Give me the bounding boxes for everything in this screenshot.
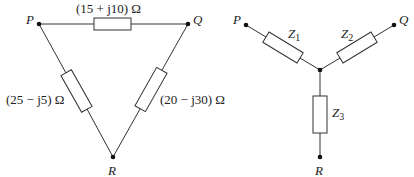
star-label-z2: Z2 — [341, 26, 353, 43]
delta-node-p — [37, 22, 42, 27]
delta-impedance-pq: (15 + j10) Ω — [76, 1, 141, 16]
star-wire-z2-outer — [374, 25, 394, 37]
delta-impedance-pr: (25 − j5) Ω — [6, 92, 65, 107]
delta-impedance-qr: (20 − j30) Ω — [160, 92, 225, 107]
star-label-p: P — [232, 12, 241, 27]
star-label-q: Q — [399, 12, 409, 27]
delta-node-r — [111, 155, 116, 160]
delta-label-p: P — [25, 12, 34, 27]
star-node-q — [392, 23, 397, 28]
delta-wire-pr-bottom — [87, 109, 113, 157]
star-wire-z1-outer — [246, 25, 266, 37]
delta-node-q — [186, 22, 191, 27]
star-label-z1: Z1 — [288, 26, 300, 43]
delta-label-q: Q — [193, 12, 203, 27]
star-node-p — [244, 23, 249, 28]
star-network: P Q R Z1 Z2 Z3 — [232, 12, 409, 177]
delta-wire-qr-top — [162, 24, 188, 70]
star-node-center — [318, 68, 323, 73]
star-wire-z2-inner — [320, 58, 340, 70]
delta-resistor-pq — [94, 18, 131, 30]
star-label-r: R — [314, 163, 323, 177]
delta-resistor-pr — [61, 70, 92, 112]
star-label-z3: Z3 — [332, 105, 344, 122]
circuit-diagram: P Q R (15 + j10) Ω (25 − j5) Ω (20 − j30… — [0, 0, 414, 177]
star-wire-z1-inner — [300, 58, 320, 70]
delta-wire-qr-bottom — [113, 109, 140, 157]
delta-network: P Q R (15 + j10) Ω (25 − j5) Ω (20 − j30… — [6, 1, 225, 177]
delta-label-r: R — [107, 163, 116, 177]
delta-wire-pr-top — [39, 24, 66, 73]
star-resistor-z3 — [313, 96, 327, 133]
star-node-r — [318, 155, 323, 160]
